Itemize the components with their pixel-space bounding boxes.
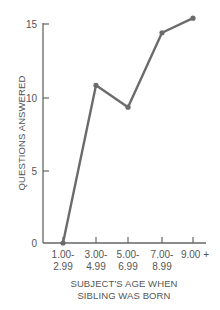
x-tick-labels: 1.00- 2.99 3.00- 4.99 5.00- 6.99 7.00- 8…	[52, 249, 210, 272]
x-tick-label: 4.99	[86, 261, 106, 272]
x-tick-label: 9.00 +	[181, 249, 209, 260]
x-tick-label: 1.00-	[52, 249, 75, 260]
x-tick-label: 8.99	[152, 261, 172, 272]
data-point	[60, 240, 65, 245]
x-tick-label: 3.00-	[85, 249, 108, 260]
x-tick-label: 6.99	[118, 261, 138, 272]
data-point	[159, 30, 164, 35]
x-tick-label: 5.00-	[117, 249, 140, 260]
y-tick-label: 15	[26, 19, 38, 30]
y-tick-labels: 0 5 10 15	[26, 19, 38, 249]
data-point	[190, 16, 195, 21]
x-tick-label: 2.99	[53, 261, 73, 272]
y-tick-label: 0	[31, 238, 37, 249]
y-tick-label: 5	[31, 166, 37, 177]
data-line	[63, 18, 193, 243]
data-point	[125, 105, 130, 110]
x-axis-title: SUBJECT'S AGE WHEN	[70, 278, 177, 289]
line-chart: 0 5 10 15 1.00- 2.99 3.00- 4.99 5.00- 6.…	[0, 0, 220, 310]
y-ticks	[43, 24, 49, 171]
x-tick-label: 7.00-	[151, 249, 174, 260]
y-tick-label: 10	[26, 93, 38, 104]
x-axis-title: SIBLING WAS BORN	[77, 290, 170, 301]
y-axis-title: QUESTIONS ANSWERED	[16, 76, 27, 191]
data-point	[93, 83, 98, 88]
x-ticks	[63, 237, 193, 243]
data-points	[60, 16, 195, 246]
